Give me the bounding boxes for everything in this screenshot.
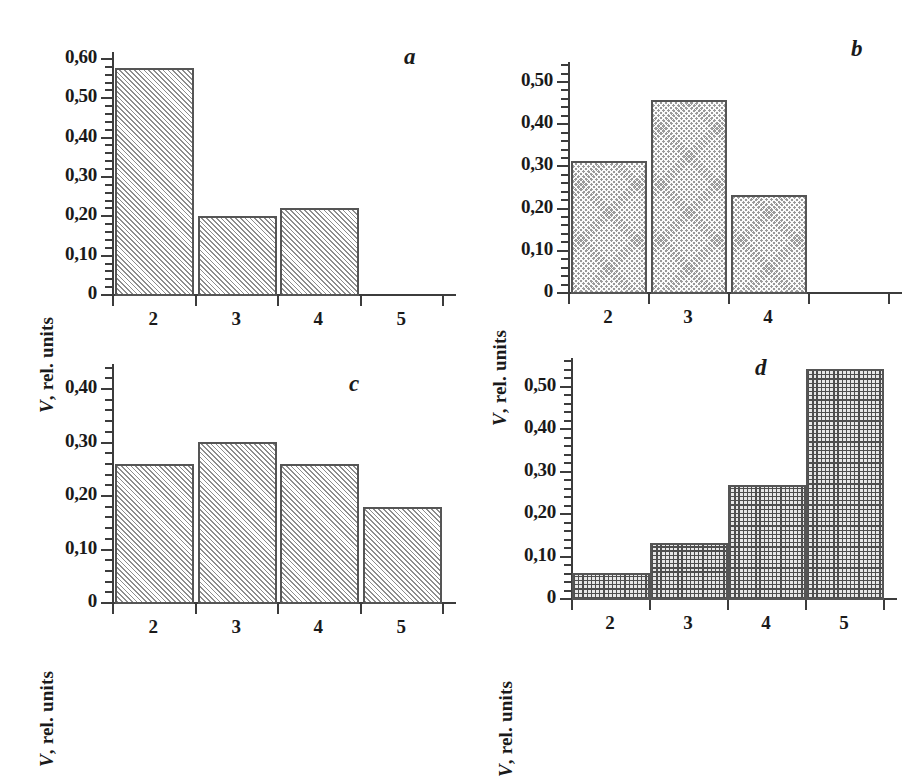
- y-tick-label-d: 0,50: [486, 374, 556, 396]
- y-tick-minor-c: [105, 570, 112, 572]
- y-tick-minor-d: [564, 445, 571, 447]
- y-tick-minor-d: [564, 479, 571, 481]
- y-tick-label-d: 0: [486, 586, 556, 608]
- x-tick-b: [728, 294, 730, 304]
- x-tick-label-c: 5: [360, 616, 443, 638]
- y-tick-minor-b: [561, 224, 568, 226]
- bar: [572, 573, 650, 600]
- bar: [115, 68, 194, 296]
- x-tick-c: [442, 604, 444, 614]
- y-tick-minor-b: [561, 191, 568, 193]
- y-tick-minor-a: [105, 168, 112, 170]
- x-tick-d: [727, 600, 729, 610]
- x-tick-b: [808, 294, 810, 304]
- y-tick-minor-b: [561, 132, 568, 134]
- y-tick-major-c: [101, 495, 112, 497]
- plot-area-d: 00,100,200,300,400,502345: [453, 331, 906, 662]
- y-tick-minor-a: [105, 66, 112, 68]
- y-tick-major-d: [560, 513, 571, 515]
- x-tick-d: [649, 600, 651, 610]
- y-tick-minor-a: [105, 192, 112, 194]
- y-tick-major-c: [101, 549, 112, 551]
- plot-area-c: 00,100,200,300,402345: [0, 331, 453, 662]
- x-tick-b: [648, 294, 650, 304]
- y-tick-label-b: 0,50: [483, 69, 553, 91]
- y-tick-minor-c: [105, 399, 112, 401]
- y-tick-minor-c: [105, 452, 112, 454]
- y-axis-line-a: [112, 52, 114, 296]
- y-tick-minor-d: [564, 394, 571, 396]
- plot-area-a: 00,100,200,300,400,500,602345: [0, 0, 453, 331]
- y-tick-minor-a: [105, 113, 112, 115]
- y-tick-minor-a: [105, 200, 112, 202]
- x-tick-a: [360, 296, 362, 306]
- y-tick-minor-d: [564, 403, 571, 405]
- y-tick-minor-b: [561, 182, 568, 184]
- x-tick-label-a: 2: [112, 308, 195, 330]
- x-tick-label-b: 4: [728, 306, 808, 328]
- x-tick-label-d: 5: [805, 612, 883, 634]
- y-tick-major-d: [560, 556, 571, 558]
- y-tick-label-d: 0,10: [486, 544, 556, 566]
- y-tick-major-b: [557, 250, 568, 252]
- chart-panel-d: V, rel. units d 00,100,200,300,400,50234…: [453, 331, 906, 662]
- y-tick-minor-a: [105, 207, 112, 209]
- y-tick-major-b: [557, 292, 568, 294]
- y-tick-label-d: 0,20: [486, 501, 556, 523]
- x-tick-c: [112, 604, 114, 614]
- y-tick-minor-a: [105, 231, 112, 233]
- y-tick-minor-c: [105, 463, 112, 465]
- y-tick-label-a: 0,10: [27, 243, 97, 265]
- y-tick-label-a: 0,30: [27, 164, 97, 186]
- y-tick-label-c: 0,40: [27, 376, 97, 398]
- y-tick-minor-a: [105, 239, 112, 241]
- y-tick-minor-a: [105, 247, 112, 249]
- y-tick-major-a: [101, 176, 112, 178]
- y-tick-minor-a: [105, 82, 112, 84]
- y-tick-minor-b: [561, 115, 568, 117]
- y-tick-minor-d: [564, 496, 571, 498]
- y-axis-line-d: [571, 358, 573, 600]
- y-tick-minor-c: [105, 431, 112, 433]
- y-tick-label-c: 0,10: [27, 537, 97, 559]
- y-tick-label-a: 0,50: [27, 85, 97, 107]
- y-tick-label-a: 0,20: [27, 203, 97, 225]
- y-tick-label-b: 0,20: [483, 196, 553, 218]
- y-tick-major-b: [557, 165, 568, 167]
- bar: [651, 100, 727, 294]
- y-tick-minor-c: [105, 581, 112, 583]
- y-tick-minor-d: [564, 505, 571, 507]
- y-axis-line-b: [568, 62, 570, 294]
- y-tick-minor-d: [564, 420, 571, 422]
- x-tick-label-a: 4: [277, 308, 360, 330]
- x-tick-d: [571, 600, 573, 610]
- y-tick-minor-b: [561, 64, 568, 66]
- bar: [280, 208, 359, 296]
- y-tick-minor-a: [105, 89, 112, 91]
- x-tick-label-a: 5: [360, 308, 443, 330]
- y-tick-minor-b: [561, 233, 568, 235]
- x-tick-b: [568, 294, 570, 304]
- y-tick-label-a: 0,60: [27, 46, 97, 68]
- y-axis-line-c: [112, 364, 114, 604]
- x-tick-c: [360, 604, 362, 614]
- y-tick-minor-d: [564, 454, 571, 456]
- y-tick-minor-b: [561, 199, 568, 201]
- x-tick-label-a: 3: [195, 308, 278, 330]
- y-tick-label-b: 0,30: [483, 153, 553, 175]
- y-tick-minor-c: [105, 484, 112, 486]
- y-tick-minor-a: [105, 144, 112, 146]
- y-tick-minor-b: [561, 106, 568, 108]
- y-tick-major-d: [560, 471, 571, 473]
- y-tick-minor-d: [564, 547, 571, 549]
- bar: [731, 195, 807, 294]
- x-tick-c: [277, 604, 279, 614]
- y-tick-major-a: [101, 255, 112, 257]
- y-tick-major-b: [557, 81, 568, 83]
- y-tick-major-c: [101, 388, 112, 390]
- y-tick-minor-b: [561, 258, 568, 260]
- y-tick-minor-c: [105, 527, 112, 529]
- x-tick-a: [277, 296, 279, 306]
- y-tick-minor-d: [564, 590, 571, 592]
- y-tick-minor-b: [561, 275, 568, 277]
